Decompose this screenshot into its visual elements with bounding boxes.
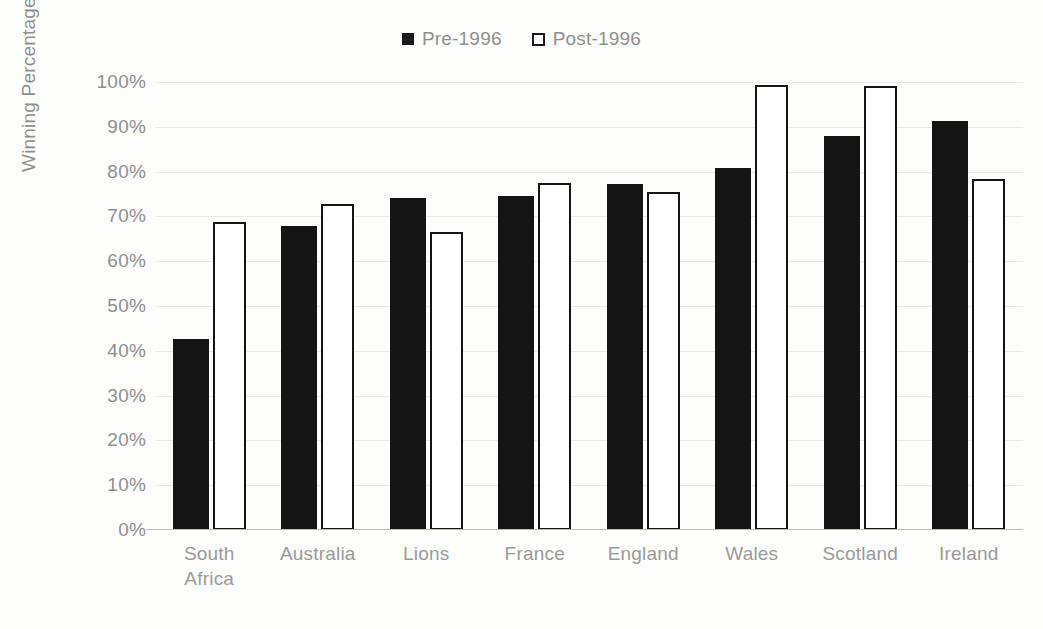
y-axis-title: Winning Percentage xyxy=(18,0,40,172)
y-axis-tick-label: 90% xyxy=(107,116,146,138)
bar-lions-pre-1996[interactable] xyxy=(390,198,426,530)
y-axis-tick-label: 60% xyxy=(107,250,146,272)
chart-legend: Pre-1996 Post-1996 xyxy=(0,28,1043,50)
bar-scotland-pre-1996[interactable] xyxy=(824,136,860,530)
bar-australia-pre-1996[interactable] xyxy=(281,226,317,530)
x-axis-category-label: England xyxy=(589,541,698,591)
x-axis-category-label: Scotland xyxy=(806,541,915,591)
x-axis-category-label: France xyxy=(481,541,590,591)
bar-australia-post-1996[interactable] xyxy=(321,204,354,530)
y-axis-tick-label: 40% xyxy=(107,340,146,362)
plot-area xyxy=(155,82,1023,530)
bar-ireland-pre-1996[interactable] xyxy=(932,121,968,530)
bar-england-post-1996[interactable] xyxy=(647,192,680,530)
bar-group xyxy=(915,82,1024,530)
bar-group xyxy=(589,82,698,530)
legend-label-pre-1996: Pre-1996 xyxy=(422,28,502,50)
x-axis-category-label: Australia xyxy=(264,541,373,591)
y-axis-tick-label: 80% xyxy=(107,161,146,183)
y-axis-tick-label: 0% xyxy=(118,519,146,541)
bar-group xyxy=(698,82,807,530)
bar-france-post-1996[interactable] xyxy=(538,183,571,530)
bar-south-africa-pre-1996[interactable] xyxy=(173,339,209,530)
legend-item-pre-1996[interactable]: Pre-1996 xyxy=(402,28,502,50)
legend-item-post-1996[interactable]: Post-1996 xyxy=(532,28,641,50)
bar-group xyxy=(806,82,915,530)
bar-south-africa-post-1996[interactable] xyxy=(213,222,246,530)
bar-groups xyxy=(155,82,1023,530)
y-axis-tick-label: 100% xyxy=(97,71,146,93)
y-axis-tick-label: 50% xyxy=(107,295,146,317)
bar-group xyxy=(264,82,373,530)
bar-england-pre-1996[interactable] xyxy=(607,184,643,530)
hollow-square-icon xyxy=(532,33,545,46)
bar-group xyxy=(155,82,264,530)
bar-france-pre-1996[interactable] xyxy=(498,196,534,530)
y-axis-ticks: 100%90%80%70%60%50%40%30%20%10%0% xyxy=(60,82,146,530)
y-axis-tick-label: 70% xyxy=(107,205,146,227)
y-axis-tick-label: 10% xyxy=(107,474,146,496)
bar-group xyxy=(481,82,590,530)
bar-lions-post-1996[interactable] xyxy=(430,232,463,530)
bar-group xyxy=(372,82,481,530)
x-axis-category-label: Wales xyxy=(698,541,807,591)
x-axis-category-label: Ireland xyxy=(915,541,1024,591)
x-axis-category-label: SouthAfrica xyxy=(155,541,264,591)
x-axis-line xyxy=(146,529,1023,530)
filled-square-icon xyxy=(402,33,414,45)
bar-ireland-post-1996[interactable] xyxy=(972,179,1005,530)
x-axis-categories: SouthAfricaAustraliaLionsFranceEnglandWa… xyxy=(155,541,1023,591)
y-axis-tick-label: 30% xyxy=(107,385,146,407)
legend-label-post-1996: Post-1996 xyxy=(553,28,641,50)
y-axis-tick-label: 20% xyxy=(107,429,146,451)
bar-wales-post-1996[interactable] xyxy=(755,85,788,530)
bar-scotland-post-1996[interactable] xyxy=(864,86,897,530)
bar-wales-pre-1996[interactable] xyxy=(715,168,751,530)
bar-chart: Pre-1996 Post-1996 Winning Percentage 10… xyxy=(0,0,1043,629)
x-axis-category-label: Lions xyxy=(372,541,481,591)
